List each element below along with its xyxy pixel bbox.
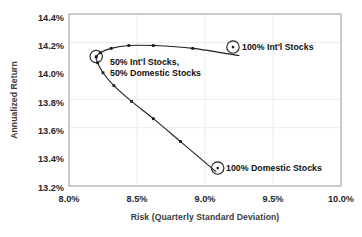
data-point-marker <box>152 117 155 120</box>
y-axis-title: Annualized Return <box>9 61 19 139</box>
marker-dot-intl <box>232 46 235 49</box>
data-point-marker <box>127 44 130 47</box>
x-tick-label: 8.5% <box>127 194 148 204</box>
data-point-marker <box>112 84 115 87</box>
x-axis-tick-labels: 8.0% 8.5% 9.0% 9.5% 10.0% <box>59 194 355 204</box>
efficient-frontier-chart: 14.4% 14.2% 14.0% 13.8% 13.6% 13.4% 13.2… <box>0 0 362 237</box>
data-point-marker <box>102 71 105 74</box>
x-tick-label: 9.5% <box>263 194 284 204</box>
annotation-label-fifty-fifty-line2: 50% Domestic Stocks <box>110 68 201 78</box>
y-tick-label: 13.2% <box>38 183 64 193</box>
y-tick-label: 13.6% <box>38 126 64 136</box>
marker-dot-domestic <box>216 167 219 170</box>
annotation-domestic-stocks: 100% Domestic Stocks <box>212 162 322 174</box>
data-point-marker <box>130 100 133 103</box>
annotation-label-fifty-fifty-line1: 50% Int'l Stocks, <box>110 57 179 67</box>
x-tick-label: 9.0% <box>195 194 216 204</box>
y-tick-label: 14.0% <box>38 69 64 79</box>
data-point-marker <box>191 47 194 50</box>
y-tick-label: 13.4% <box>38 154 64 164</box>
data-point-marker <box>152 44 155 47</box>
data-point-marker <box>179 140 182 143</box>
x-tick-label: 10.0% <box>328 194 354 204</box>
y-tick-label: 13.8% <box>38 98 64 108</box>
data-point-marker <box>110 47 113 50</box>
y-axis-tick-labels: 14.4% 14.2% 14.0% 13.8% 13.6% 13.4% 13.2… <box>38 13 64 193</box>
y-tick-label: 14.2% <box>38 41 64 51</box>
marker-dot-fifty-fifty <box>95 55 98 58</box>
x-axis-title: Risk (Quarterly Standard Deviation) <box>131 212 280 222</box>
chart-canvas: 14.4% 14.2% 14.0% 13.8% 13.6% 13.4% 13.2… <box>0 0 362 237</box>
y-tick-label: 14.4% <box>38 13 64 23</box>
annotation-label-intl: 100% Int'l Stocks <box>242 42 314 52</box>
x-tick-label: 8.0% <box>59 194 80 204</box>
annotation-label-domestic: 100% Domestic Stocks <box>226 163 322 173</box>
